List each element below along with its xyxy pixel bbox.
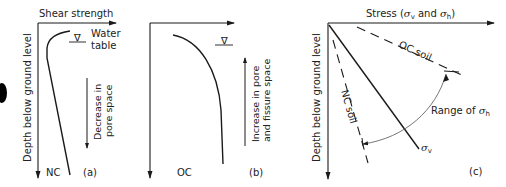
water-table-label-1: Water <box>91 28 121 39</box>
soil-stress-diagram: Shear strength Depth below ground level … <box>0 0 506 187</box>
panel-b: ∇ Increase in pore and fissure space OC … <box>150 23 272 178</box>
nc-tick <box>362 138 363 146</box>
panel-c: Stress (σv and σh) Depth below ground le… <box>311 8 494 179</box>
panel-a: Shear strength Depth below ground level … <box>22 8 121 178</box>
nc-shear-strength-curve <box>47 31 70 175</box>
curve-label-oc: OC <box>177 167 192 178</box>
sigma-v-label: σv <box>421 142 432 155</box>
water-table-icon-a: ∇ <box>73 32 81 43</box>
panel-tag-b: (b) <box>249 167 263 178</box>
label-decrease-1: Decrease in <box>92 84 103 140</box>
range-label: Range of σh <box>431 105 490 118</box>
label-increase-2: and fissure space <box>261 59 272 142</box>
axis-label-stress: Stress (σv and σh) <box>366 8 455 21</box>
oc-shear-strength-curve <box>173 35 223 164</box>
curve-label-nc: NC <box>46 167 60 178</box>
panel-tag-c: (c) <box>469 166 482 177</box>
oc-soil-label: OC soil <box>397 39 433 63</box>
axis-label-depth-c: Depth below ground level <box>311 33 322 162</box>
axis-label-shear-strength: Shear strength <box>39 8 113 19</box>
scan-artifact-blob <box>0 83 7 103</box>
axis-label-depth-a: Depth below ground level <box>22 33 33 162</box>
water-table-icon-b: ∇ <box>220 35 228 46</box>
label-decrease-2: pore space <box>103 85 114 137</box>
water-table-label-2: table <box>91 40 116 51</box>
nc-soil-label: NC soil <box>339 89 359 125</box>
panel-tag-a: (a) <box>83 167 97 178</box>
label-increase-1: Increase in pore <box>250 66 261 142</box>
range-arc-head-top <box>443 74 449 82</box>
oc-tick <box>444 71 459 72</box>
